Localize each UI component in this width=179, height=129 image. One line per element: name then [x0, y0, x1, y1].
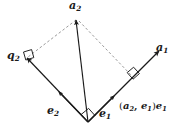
label-projection-expression: (a2, e1)e1	[119, 101, 167, 111]
label-a1: a1	[156, 42, 168, 53]
right-angle-marker-q2	[24, 50, 34, 60]
right-angle-marker-origin	[81, 108, 95, 115]
label-a2: a2	[69, 0, 81, 11]
label-q2: q2	[7, 50, 20, 61]
label-e1: e1	[99, 108, 111, 119]
dashed-line-a2-to-q2	[28, 20, 76, 57]
vector-e2	[60, 93, 88, 122]
dashed-line-a2-to-projection	[79, 21, 132, 76]
vector-a2	[76, 20, 88, 122]
label-e2: e2	[47, 105, 59, 116]
gram-schmidt-figure: a2 a1 q2 e2 e1 (a2, e1)e1	[0, 0, 179, 129]
